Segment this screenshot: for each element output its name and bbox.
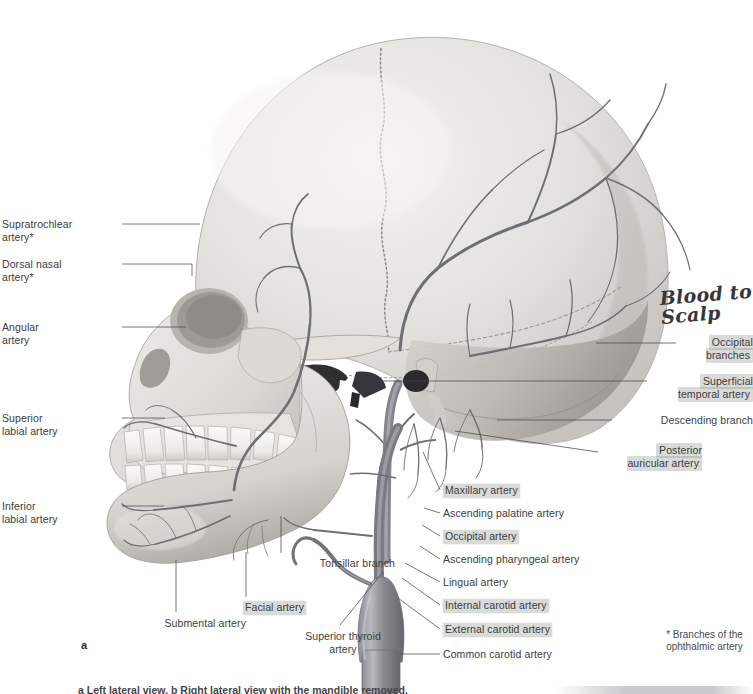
label-dorsal-nasal-artery: Dorsal nasal artery* (2, 258, 119, 283)
label-superior-labial-artery: Superior labial artery (2, 412, 119, 437)
label-posterior-auricular-artery: Posterior auricular artery (602, 444, 702, 469)
handwritten-annotation-blood-to-scalp: Blood to Scalp (659, 282, 753, 327)
highlight-external-carotid-artery: External carotid artery (443, 623, 552, 637)
label-ascending-palatine-artery: Ascending palatine artery (443, 507, 564, 520)
bottom-gray-band (555, 686, 753, 694)
label-external-carotid-artery: External carotid artery (443, 623, 552, 637)
label-superior-thyroid-artery: Superior thyroid artery (288, 630, 398, 655)
figure-caption-partial: a Left lateral view. b Right lateral vie… (78, 684, 548, 694)
highlight-occipital-artery: Occipital artery (443, 530, 519, 544)
label-internal-carotid-artery: Internal carotid artery (443, 599, 549, 613)
highlight-occipital-branches: Occipital branches (706, 335, 753, 363)
highlight-maxillary-artery: Maxillary artery (443, 484, 520, 498)
label-common-carotid-artery: Common carotid artery (443, 648, 552, 661)
highlight-superficial-temporal-artery: Superficial temporal artery (678, 374, 753, 402)
label-maxillary-artery: Maxillary artery (443, 484, 520, 498)
label-descending-branch: Descending branch (616, 414, 753, 427)
highlight-facial-artery: Facial artery (243, 601, 306, 615)
label-lingual-artery: Lingual artery (443, 576, 508, 589)
figure-page: Supratrochlear artery*Dorsal nasal arter… (0, 0, 753, 694)
label-superficial-temporal-artery: Superficial temporal artery (651, 375, 753, 400)
highlight-internal-carotid-artery: Internal carotid artery (443, 599, 549, 613)
label-occipital-branches: Occipital branches (680, 336, 753, 361)
panel-letter-a: a (81, 639, 87, 651)
label-tonsillar-branch: Tonsillar branch (285, 557, 395, 570)
skull-artery-illustration (0, 0, 753, 694)
label-supratrochlear-artery: Supratrochlear artery* (2, 218, 119, 243)
label-inferior-labial-artery: Inferior labial artery (2, 500, 119, 525)
label-facial-artery: Facial artery (216, 601, 306, 615)
footnote-ophthalmic-branches: * Branches of the ophthalmic artery (656, 629, 753, 654)
highlight-posterior-auricular-artery: Posterior auricular artery (627, 443, 702, 471)
label-ascending-pharyngeal-artery: Ascending pharyngeal artery (443, 553, 579, 566)
label-occipital-artery: Occipital artery (443, 530, 519, 544)
label-angular-artery: Angular artery (2, 321, 119, 346)
label-submental-artery: Submental artery (126, 617, 246, 630)
